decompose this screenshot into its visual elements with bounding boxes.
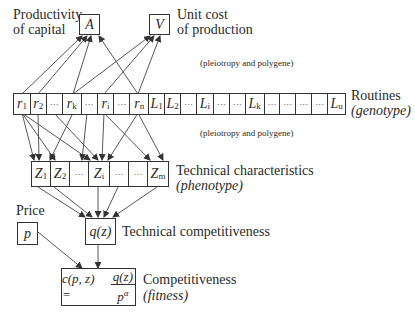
- routine-cell: ···: [265, 94, 281, 114]
- formula-numerator: q(z): [111, 269, 135, 285]
- characteristic-cell-subscript: 2: [62, 171, 67, 181]
- competitiveness-formula: c(p, z) = q(z) pα: [62, 269, 135, 305]
- routine-cell: L1: [149, 94, 165, 114]
- productivity-label-line1: Productivity: [13, 7, 82, 23]
- formula-lhs: c(p, z) =: [62, 271, 105, 303]
- annotation-pleiotropy-lower: (pleiotropy and polygene): [200, 128, 293, 138]
- technical-characteristics-sublabel: (phenotype): [176, 178, 243, 194]
- routine-cell-subscript: k: [256, 101, 261, 111]
- characteristic-cell-symbol: ···: [134, 169, 143, 179]
- routine-cell: ···: [181, 94, 197, 114]
- routine-cell-symbol: ···: [299, 99, 308, 109]
- routine-cell-symbol: L: [248, 96, 256, 112]
- routine-cell: r1: [14, 94, 31, 114]
- routine-cell-symbol: L: [150, 96, 158, 112]
- characteristic-cell: ···: [110, 162, 129, 186]
- characteristic-cell: Z2: [51, 162, 70, 186]
- routine-cell: ···: [214, 94, 230, 114]
- routine-cell-symbol: ···: [217, 99, 226, 109]
- routine-cell-symbol: ···: [283, 99, 292, 109]
- routine-cell-subscript: 2: [39, 101, 44, 111]
- routine-cell-subscript: 1: [22, 101, 27, 111]
- routine-cell-symbol: L: [166, 96, 174, 112]
- annotation-pleiotropy-upper: (pleiotropy and polygene): [200, 58, 293, 68]
- routine-cell-symbol: L: [200, 96, 208, 112]
- unit-cost-box-v: V: [149, 14, 170, 35]
- unit-cost-label-line1: Unit cost: [177, 7, 228, 23]
- characteristic-cell-symbol: Z: [94, 166, 102, 182]
- routine-cell-symbol: ···: [50, 99, 59, 109]
- routine-cell-subscript: 2: [174, 101, 179, 111]
- characteristic-cell: Zi: [89, 162, 110, 186]
- routine-cell-symbol: L: [330, 96, 338, 112]
- technical-competitiveness-box: q(z): [85, 218, 116, 245]
- routine-cell-symbol: ···: [117, 99, 126, 109]
- routine-cell-subscript: 1: [158, 101, 163, 111]
- routine-cell: Li: [197, 94, 214, 114]
- routines-strip: r1r2···rk···ri···rnL1L2···Li······Lk····…: [13, 93, 346, 115]
- qz-text: q(z): [90, 224, 112, 240]
- routine-cell-subscript: u: [338, 101, 343, 111]
- routines-label: Routines: [351, 88, 401, 104]
- characteristic-cell-subscript: i: [102, 171, 105, 181]
- characteristic-cell-symbol: Z: [35, 166, 43, 182]
- routines-sublabel: (genotype): [351, 103, 411, 119]
- routine-cell: ···: [82, 94, 98, 114]
- routine-cell-symbol: ···: [233, 99, 242, 109]
- technical-characteristics-strip: Z1Z2···Zi······Zm: [31, 161, 169, 187]
- characteristic-cell-symbol: Z: [54, 166, 62, 182]
- characteristic-cell: Z1: [32, 162, 51, 186]
- formula-fraction: q(z) pα: [111, 269, 135, 305]
- routine-cell-subscript: n: [140, 101, 145, 111]
- characteristic-cell: ···: [129, 162, 148, 186]
- routine-cell-subscript: k: [72, 101, 77, 111]
- competitiveness-label: Competitiveness: [143, 272, 236, 288]
- characteristic-cell-symbol: Z: [151, 166, 159, 182]
- routine-cell: L2: [165, 94, 181, 114]
- productivity-label-line2: of capital: [13, 22, 65, 38]
- routine-cell: ···: [230, 94, 246, 114]
- characteristic-cell-subscript: m: [158, 171, 165, 181]
- routine-cell: rk: [63, 94, 82, 114]
- formula-exponent: α: [124, 288, 129, 298]
- characteristic-cell-subscript: 1: [43, 171, 48, 181]
- routine-cell: Lk: [246, 94, 265, 114]
- routine-cell-subscript: i: [107, 101, 110, 111]
- routine-cell: ···: [296, 94, 312, 114]
- characteristic-cell-symbol: ···: [115, 169, 124, 179]
- price-box: p: [17, 222, 38, 245]
- characteristic-cell-symbol: ···: [75, 169, 84, 179]
- routine-cell: ···: [280, 94, 296, 114]
- routine-cell-symbol: ···: [267, 99, 276, 109]
- routine-cell: ri: [98, 94, 115, 114]
- competitiveness-sublabel: (fitness): [143, 288, 188, 304]
- routine-cell: ···: [47, 94, 63, 114]
- routine-cell: ···: [312, 94, 328, 114]
- routine-cell: Lu: [328, 94, 345, 114]
- routine-cell: rn: [130, 94, 149, 114]
- technical-competitiveness-label: Technical competitiveness: [122, 224, 270, 240]
- productivity-box-a: A: [79, 14, 100, 35]
- routine-cell: r2: [31, 94, 47, 114]
- routine-cell-symbol: ···: [184, 99, 193, 109]
- technical-characteristics-label: Technical characteristics: [176, 163, 314, 179]
- unit-cost-label-line2: of production: [177, 22, 253, 38]
- routine-cell-symbol: ···: [85, 99, 94, 109]
- routine-cell-symbol: ···: [315, 99, 324, 109]
- characteristic-cell: Zm: [148, 162, 168, 186]
- formula-denominator: pα: [117, 285, 128, 305]
- characteristic-cell: ···: [70, 162, 89, 186]
- competitiveness-formula-box: c(p, z) = q(z) pα: [61, 268, 136, 306]
- routine-cell-subscript: i: [207, 101, 210, 111]
- routine-cell: ···: [114, 94, 130, 114]
- price-label: Price: [16, 203, 45, 219]
